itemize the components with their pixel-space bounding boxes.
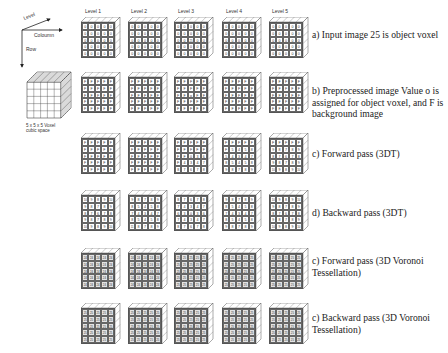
voxel-cell: 0 [296,37,302,44]
voxel-cell: 9 [296,146,302,153]
voxel-cell: 0 [296,50,302,57]
voxel-cell: 6 [201,210,207,217]
voxel-block-row5-level4: 2525252525252525252525252525252525252525… [221,248,261,292]
voxel-cell: 7 [249,153,255,160]
voxel-cell: 0 [108,50,114,57]
column-axis-label: Coloumn [34,32,54,38]
voxel-cell: 8 [249,146,255,153]
voxel-grid: 0000000000000000000000000 [222,22,256,58]
voxel-cell: 10 [108,196,114,203]
caption-backward-voronoi: c) Backward pass (3D Voronoi Tessellatio… [312,312,446,335]
voxel-grid: 10989109878987678987891098910 [269,195,303,231]
voxel-block-row1-level3: 00000000000025000000000000 [173,17,213,61]
voxel-cell: 25 [155,323,161,330]
voxel-cell: 10 [296,196,302,203]
voxel-block-row1-level2: 0000000000000000000000000 [127,17,167,61]
voxel-cell: 25 [296,336,302,343]
voxel-cell: 24 [108,274,114,281]
voxel-grid: 2525252525252525252525252525252525252525… [222,308,256,344]
voxel-grid: 2525252525252525252525252525252525252525… [174,253,208,289]
voxel-cell: 0 [201,50,207,57]
cube-caption: 5 x 5 x 5 Voxel cubic space [26,123,66,133]
voxel-grid: 2525252525252525252525252525252525252525… [222,253,256,289]
voxel-cell: 25 [155,316,161,323]
voxel-block-row1-level1: 0000000000000000000000000 [80,17,120,61]
voxel-grid: 2424242424242424242424242424242424242424… [81,253,115,289]
voxel-cell: 25 [249,268,255,275]
voxel-cell: 8 [201,196,207,203]
voxel-cell: 9 [296,216,302,223]
voxel-cell: 0 [249,23,255,30]
voxel-block-row4-level2: 98789854587434785458118789 [127,190,167,234]
voxel-cell: 24 [155,268,161,275]
voxel-cell: F [201,85,207,92]
voxel-grid: FFFFFFFFFFFFoFFFFFFFFFFFF [174,77,208,113]
voxel-cell: F [201,98,207,105]
voxel-cell: 0 [249,50,255,57]
voxel-block-row4-level3: 8767874347630367434787678 [173,190,213,234]
voxel-cell: 0 [296,30,302,37]
voxel-cell: F [108,146,114,153]
voxel-cell: F [155,153,161,160]
voxel-cell: 25 [296,261,302,268]
voxel-cell: 0 [201,43,207,50]
level-header-2: Level 2 [131,8,147,14]
voxel-cell: 0 [155,50,161,57]
voxel-cell: 7 [249,210,255,217]
voxel-cell: F [296,98,302,105]
voxel-cell: 25 [249,254,255,261]
voxel-cell: 0 [155,30,161,37]
voxel-cell: F [108,166,114,173]
voxel-cell: 0 [201,30,207,37]
voxel-cell: 25 [201,323,207,330]
voxel-cell: F [249,85,255,92]
voxel-block-row2-level3: FFFFFFFFFFFFoFFFFFFFFFFFF [173,72,213,116]
voxel-cell: 24 [155,261,161,268]
voxel-cell: 0 [155,37,161,44]
voxel-grid: FFFFFFFFFFFFFFFFFFFFFFFFF [128,77,162,113]
voxel-cell: 0 [201,37,207,44]
voxel-grid: 0000000000000000000000000 [269,22,303,58]
voxel-cell: 25 [296,309,302,316]
voxel-cell: 8 [155,203,161,210]
voxel-block-row2-level4: FFFFFFFFFFFFFFFFFFFFFFFFF [221,72,261,116]
voxel-cell: 25 [296,268,302,275]
voxel-cell: F [296,105,302,112]
voxel-grid: 2525252525252525252525252525252525252525… [269,308,303,344]
voxel-cell: 7 [155,210,161,217]
voxel-grid: 0000000000000000000000000 [81,22,115,58]
voxel-cell: 0 [249,37,255,44]
voxel-cell: 0 [108,30,114,37]
voxel-cell: 25 [249,281,255,288]
voxel-cell: 0 [108,23,114,30]
voxel-cell: 0 [155,43,161,50]
voxel-cell: 25 [201,309,207,316]
voxel-cell: F [155,92,161,99]
voxel-cell: 9 [296,203,302,210]
voxel-cell: 25 [296,329,302,336]
voxel-grid: 2424242424242424242424242424242424242424… [128,253,162,289]
voxel-cell: 8 [249,203,255,210]
voxel-cell: 25 [249,309,255,316]
voxel-cell: F [108,98,114,105]
voxel-cell: F [296,139,302,146]
voxel-cell: F [155,146,161,153]
voxel-cell: 25 [296,254,302,261]
level-header-4: Level 4 [226,8,242,14]
voxel-cell: 8 [201,223,207,230]
voxel-cell: F [155,166,161,173]
voxel-cell: 25 [249,323,255,330]
voxel-cell: 25 [296,281,302,288]
voxel-cell: 25 [296,316,302,323]
axes-diagram: Level Coloumn Row [0,0,75,70]
caption-a: a) Input image 25 is object voxel [312,29,446,41]
voxel-cell: 25 [201,261,207,268]
voxel-cell: 25 [108,309,114,316]
voxel-block-row6-level4: 2525252525252525252525252525252525252525… [221,303,261,347]
voxel-block-row3-level2: FFFFFFFFFFFFFFFFFFFFFFFFF [127,133,167,177]
voxel-cell: F [201,146,207,153]
voxel-cell: 25 [201,316,207,323]
voxel-block-row3-level5: FFFFF9878987678987891098910 [268,133,308,177]
voxel-grid: 2525252525252525252525252525252525252525… [128,308,162,344]
voxel-cell: 24 [155,281,161,288]
